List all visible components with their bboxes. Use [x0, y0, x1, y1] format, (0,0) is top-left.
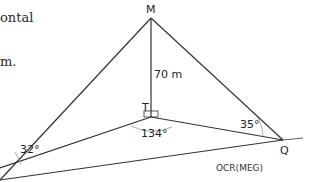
point-Q: Q — [280, 144, 289, 157]
height-label: 70 m — [154, 68, 182, 81]
angle-left-label: 32° — [20, 143, 40, 156]
angle-T-label: 134° — [141, 127, 168, 140]
source-label: OCR(MEG) — [216, 163, 263, 173]
point-T: T — [142, 101, 149, 114]
angle-Q-label: 35° — [240, 118, 260, 131]
point-M: M — [146, 3, 156, 16]
triangle-diagram — [0, 0, 309, 182]
